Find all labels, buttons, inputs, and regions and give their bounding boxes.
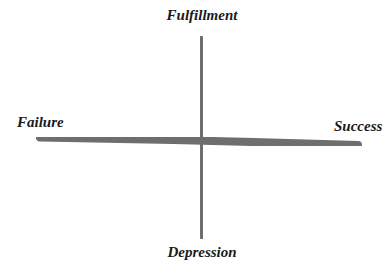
axis-label-failure: Failure: [17, 115, 64, 130]
vertical-axis-line: [200, 40, 202, 235]
axis-label-depression: Depression: [137, 245, 267, 260]
axis-label-success: Success: [334, 119, 382, 134]
quadrant-diagram: Fulfillment Failure Success Depression: [0, 0, 392, 268]
axis-label-fulfillment: Fulfillment: [137, 8, 267, 23]
axes-graphic: [0, 0, 392, 268]
